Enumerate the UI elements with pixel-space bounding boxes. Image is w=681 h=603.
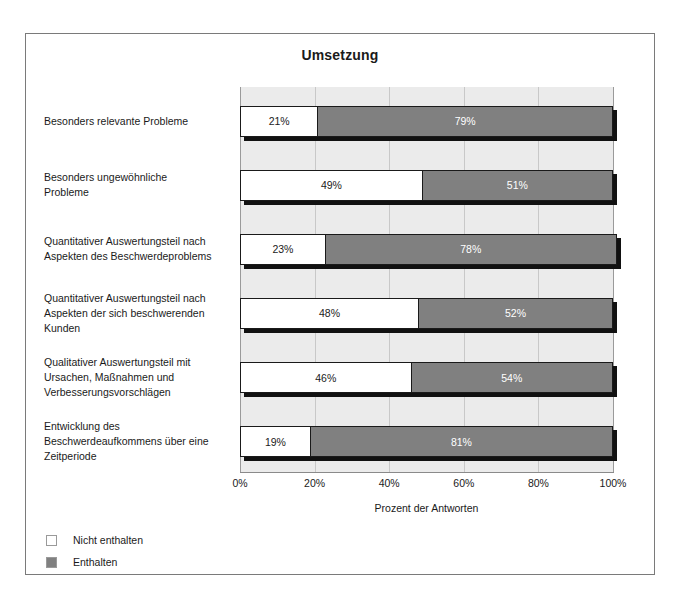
category-label-line: Aspekten des Beschwerdeproblems xyxy=(44,249,240,264)
legend-swatch-icon xyxy=(46,535,57,546)
legend-label: Enthalten xyxy=(73,556,117,568)
category-label: Entwicklung desBeschwerdeaufkommens über… xyxy=(44,419,240,464)
bar-segment-nicht-enthalten[interactable]: 49% xyxy=(240,170,423,201)
category-label-line: Kunden xyxy=(44,321,240,336)
bar-row[interactable]: 19%81% xyxy=(240,426,613,457)
category-label-line: Besonders ungewöhnliche xyxy=(44,170,240,185)
x-tick-label: 100% xyxy=(600,477,627,489)
bar-segment-enthalten[interactable]: 51% xyxy=(423,170,613,201)
category-label-line: Zeitperiode xyxy=(44,449,240,464)
gridline xyxy=(464,87,465,472)
category-label: Qualitativer Auswertungsteil mitUrsachen… xyxy=(44,355,240,400)
bar-row[interactable]: 21%79% xyxy=(240,106,613,137)
x-axis-title: Prozent der Antworten xyxy=(240,502,613,514)
gridline xyxy=(613,87,614,472)
category-label: Quantitativer Auswertungsteil nachAspekt… xyxy=(44,234,240,264)
category-label-line: Quantitativer Auswertungsteil nach xyxy=(44,291,240,306)
x-tick-label: 80% xyxy=(528,477,549,489)
legend-item[interactable]: Enthalten xyxy=(46,551,143,573)
chart-frame: Umsetzung Besonders relevante ProblemeBe… xyxy=(25,33,655,575)
gridline xyxy=(315,87,316,472)
bar-segment-enthalten[interactable]: 78% xyxy=(326,234,617,265)
bar-segment-enthalten[interactable]: 52% xyxy=(419,298,613,329)
category-label-line: Besonders relevante Probleme xyxy=(44,114,240,129)
x-tick-label: 0% xyxy=(232,477,247,489)
legend-label: Nicht enthalten xyxy=(73,534,143,546)
category-label-line: Entwicklung des xyxy=(44,419,240,434)
plot-background xyxy=(240,87,613,472)
category-label: Besonders ungewöhnlicheProbleme xyxy=(44,170,240,200)
bar-segment-nicht-enthalten[interactable]: 23% xyxy=(240,234,326,265)
x-tick-label: 60% xyxy=(453,477,474,489)
bar-segment-nicht-enthalten[interactable]: 48% xyxy=(240,298,419,329)
chart-title: Umsetzung xyxy=(26,47,654,63)
category-label: Quantitativer Auswertungsteil nachAspekt… xyxy=(44,291,240,336)
category-label-line: Verbesserungsvorschlägen xyxy=(44,385,240,400)
bar-row[interactable]: 23%78% xyxy=(240,234,613,265)
category-label-line: Beschwerdeaufkommens über eine xyxy=(44,434,240,449)
x-axis-line xyxy=(240,472,614,473)
bar-segment-nicht-enthalten[interactable]: 21% xyxy=(240,106,318,137)
gridline xyxy=(389,87,390,472)
category-label-line: Ursachen, Maßnahmen und xyxy=(44,370,240,385)
bar-segment-nicht-enthalten[interactable]: 46% xyxy=(240,362,412,393)
legend-item[interactable]: Nicht enthalten xyxy=(46,529,143,551)
bar-segment-enthalten[interactable]: 54% xyxy=(412,362,613,393)
category-label-line: Probleme xyxy=(44,185,240,200)
category-label-line: Aspekten der sich beschwerenden xyxy=(44,306,240,321)
category-label-line: Quantitativer Auswertungsteil nach xyxy=(44,234,240,249)
category-axis-labels: Besonders relevante ProblemeBesonders un… xyxy=(44,87,240,472)
legend-swatch-icon xyxy=(46,557,57,568)
x-tick-label: 40% xyxy=(379,477,400,489)
bar-row[interactable]: 49%51% xyxy=(240,170,613,201)
gridline xyxy=(538,87,539,472)
bar-segment-enthalten[interactable]: 79% xyxy=(318,106,613,137)
category-label: Besonders relevante Probleme xyxy=(44,114,240,129)
bar-segment-nicht-enthalten[interactable]: 19% xyxy=(240,426,311,457)
chart-legend: Nicht enthaltenEnthalten xyxy=(46,529,143,573)
category-label-line: Qualitativer Auswertungsteil mit xyxy=(44,355,240,370)
x-tick-label: 20% xyxy=(304,477,325,489)
bar-row[interactable]: 46%54% xyxy=(240,362,613,393)
bar-segment-enthalten[interactable]: 81% xyxy=(311,426,613,457)
bar-row[interactable]: 48%52% xyxy=(240,298,613,329)
plot-area: 21%79%49%51%23%78%48%52%46%54%19%81% xyxy=(240,87,613,472)
